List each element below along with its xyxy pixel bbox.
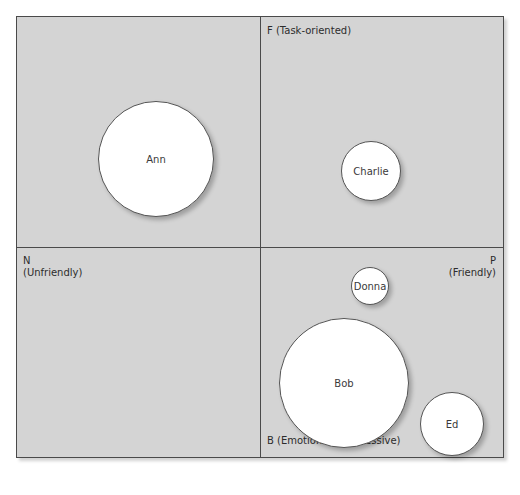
horizontal-axis-line	[17, 247, 503, 248]
person-circle-bob: Bob	[279, 318, 409, 448]
axis-label-n-letter: N	[23, 255, 82, 267]
vertical-axis-line	[260, 17, 261, 457]
axis-label-p-text: (Friendly)	[449, 267, 496, 279]
person-label: Donna	[354, 281, 387, 292]
axis-label-unfriendly: N (Unfriendly)	[23, 255, 82, 279]
axis-label-n-text: (Unfriendly)	[23, 267, 82, 279]
person-label: Charlie	[353, 166, 388, 177]
person-label: Bob	[334, 378, 353, 389]
axis-label-task-oriented: F (Task-oriented)	[267, 25, 351, 37]
axis-label-p-letter: P	[449, 255, 496, 267]
person-circle-ann: Ann	[98, 101, 214, 217]
person-label: Ed	[446, 419, 459, 430]
quadrant-diagram: F (Task-oriented) N (Unfriendly) P (Frie…	[16, 16, 504, 458]
person-circle-charlie: Charlie	[341, 141, 401, 201]
person-circle-donna: Donna	[351, 267, 389, 305]
person-circle-ed: Ed	[420, 392, 484, 456]
axis-label-friendly: P (Friendly)	[449, 255, 496, 279]
person-label: Ann	[146, 154, 166, 165]
